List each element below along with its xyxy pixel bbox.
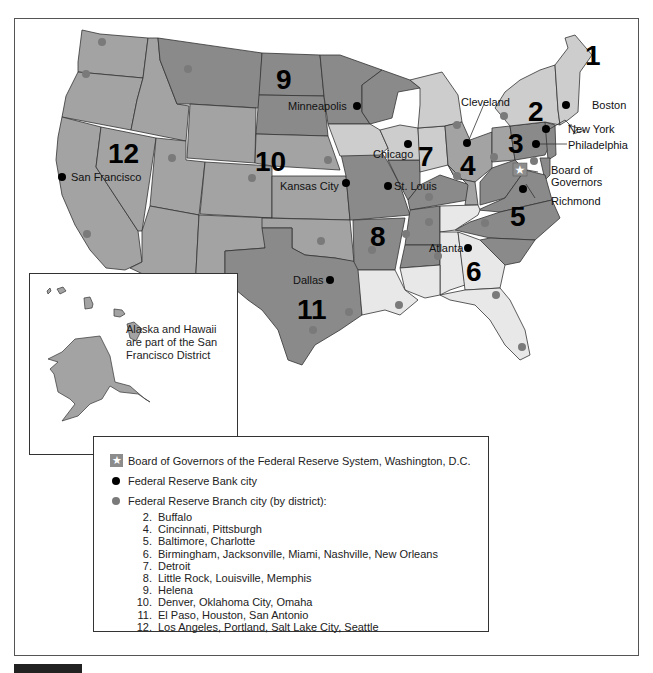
branch-list: 2.Buffalo 4.Cincinnati, Pittsburgh 5.Bal…	[130, 511, 438, 633]
district-9-wisconsin	[362, 70, 420, 124]
label-philadelphia: Philadelphia	[568, 139, 628, 151]
district-number-4: 4	[460, 152, 476, 180]
branch-item: 4.Cincinnati, Pittsburgh	[130, 523, 438, 535]
branch-item: 7.Detroit	[130, 560, 438, 572]
alaska-hawaii-inset: Alaska and Hawaii are part of the San Fr…	[29, 273, 238, 455]
district-number-2: 2	[528, 98, 544, 126]
district-number-11: 11	[297, 296, 327, 324]
district-6-florida	[440, 288, 530, 360]
label-new-york: New York	[568, 123, 614, 135]
alaska-hawaii-shapes	[30, 274, 237, 454]
district-number-8: 8	[370, 223, 386, 251]
district-number-1: 1	[585, 42, 601, 70]
district-number-12: 12	[108, 140, 139, 168]
label-minneapolis: Minneapolis	[288, 100, 347, 112]
district-number-5: 5	[510, 203, 526, 231]
branch-item: 5.Baltimore, Charlotte	[130, 535, 438, 547]
branch-item: 6.Birmingham, Jacksonville, Miami, Nashv…	[130, 548, 438, 560]
branch-item: 11.El Paso, Houston, San Antonio	[130, 609, 438, 621]
svg-text:★: ★	[515, 163, 526, 177]
hawaii-island-3	[84, 297, 93, 309]
label-atlanta: Atlanta	[429, 242, 463, 254]
legend-box: ★ Board of Governors of the Federal Rese…	[93, 436, 489, 632]
branch-item: 9.Helena	[130, 584, 438, 596]
district-12-washington	[78, 30, 148, 78]
label-kansas-city: Kansas City	[280, 180, 339, 192]
legend-branch-city: Federal Reserve Branch city (by district…	[110, 495, 327, 507]
branch-item: 2.Buffalo	[130, 511, 438, 523]
label-chicago: Chicago	[373, 148, 413, 160]
district-number-10: 10	[255, 148, 286, 176]
hawaii-island-1	[47, 288, 51, 294]
hawaii-island-2	[57, 287, 66, 294]
branch-dot-icon	[112, 497, 120, 505]
star-icon: ★	[110, 454, 123, 467]
label-board-of-governors: Board ofGovernors	[551, 164, 602, 188]
legend-bank-city: Federal Reserve Bank city	[110, 475, 257, 487]
hawaii-island-4	[114, 309, 125, 317]
label-st-louis: St. Louis	[394, 180, 437, 192]
branch-item: 10.Denver, Oklahoma City, Omaha	[130, 596, 438, 608]
label-san-francisco: San Francisco	[71, 171, 141, 183]
district-10-wyoming	[187, 104, 256, 163]
district-number-6: 6	[466, 258, 482, 286]
legend-board: ★ Board of Governors of the Federal Rese…	[110, 454, 471, 467]
inset-note: Alaska and Hawaii are part of the San Fr…	[126, 323, 217, 362]
district-7-michigan	[410, 72, 462, 128]
district-number-7: 7	[418, 143, 434, 171]
label-cleveland: Cleveland	[461, 96, 510, 108]
district-number-9: 9	[276, 66, 292, 94]
bank-dot-icon	[112, 477, 120, 485]
board-of-governors-marker: ★	[513, 163, 527, 177]
district-number-3: 3	[508, 130, 524, 158]
branch-item: 12.Los Angeles, Portland, Salt Lake City…	[130, 621, 438, 633]
label-dallas: Dallas	[293, 274, 324, 286]
label-boston: Boston	[592, 99, 626, 111]
bottom-rule	[14, 664, 82, 673]
branch-item: 8.Little Rock, Louisville, Memphis	[130, 572, 438, 584]
district-8-tennessee-w	[405, 206, 440, 245]
label-richmond: Richmond	[551, 195, 601, 207]
